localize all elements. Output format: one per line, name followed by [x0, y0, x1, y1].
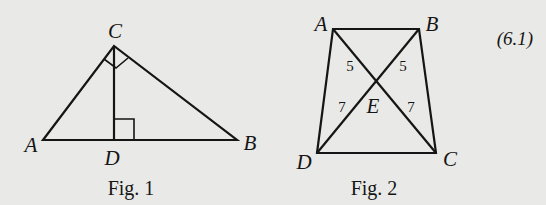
fig1-label-c: C [108, 21, 122, 42]
fig1-right-angle-d-icon [114, 119, 134, 140]
fig2-segment-de: 7 [338, 100, 346, 115]
fig2-label-d: D [296, 152, 311, 173]
fig1-caption: Fig. 1 [108, 178, 155, 198]
fig1-triangle-abc [43, 46, 237, 140]
fig1-label-d: D [104, 148, 119, 169]
fig1-right-angle-c-icon [104, 58, 128, 68]
equation-number: (6.1) [497, 29, 533, 48]
fig1-label-b: B [244, 133, 257, 154]
fig2-segment-ce: 7 [407, 100, 415, 115]
fig2-caption: Fig. 2 [351, 178, 398, 198]
geometry-drawing [0, 0, 546, 205]
fig2-label-e: E [367, 96, 380, 117]
fig2-trapezoid-abcd [317, 29, 436, 153]
fig2-segment-ae: 5 [346, 59, 354, 74]
fig2-label-c: C [443, 149, 457, 170]
fig2-label-a: A [315, 14, 328, 35]
figure-stage: C A B D Fig. 1 A B D C E 5 5 7 7 Fig. 2 … [0, 0, 546, 205]
fig1-label-a: A [25, 135, 38, 156]
fig2-segment-be: 5 [399, 59, 407, 74]
fig2-label-b: B [426, 14, 439, 35]
fig2-diagonal-bd [317, 29, 419, 153]
